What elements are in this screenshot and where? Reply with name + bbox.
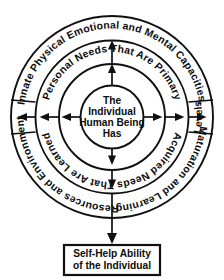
diagram-canvas: Innate Physical Emotional and Mental Cap… xyxy=(0,0,224,280)
arrow-left-inner-to-mid xyxy=(40,113,60,121)
arrow-down-core-to-inner xyxy=(108,149,116,166)
arrow-up-core-to-inner xyxy=(108,64,116,86)
core-line-4: Has xyxy=(103,128,122,139)
core-text-block: The Individual Human Being Has xyxy=(79,95,145,139)
concentric-rings-diagram: Innate Physical Emotional and Mental Cap… xyxy=(0,0,224,280)
outer-ring-right-label: Levels xyxy=(192,100,204,134)
core-line-2: Individual xyxy=(88,106,136,117)
core-line-1: The xyxy=(103,95,121,106)
arrow-right-core-to-inner xyxy=(144,113,163,121)
arrow-left-core-to-inner xyxy=(62,113,81,121)
outcome-box: Self-Help Ability of the Individual xyxy=(64,245,160,275)
outcome-line-1: Self-Help Ability xyxy=(73,248,151,259)
arrow-right-inner-to-mid xyxy=(165,113,185,121)
core-line-3: Human Being xyxy=(79,117,145,128)
outcome-line-2: of the Individual xyxy=(73,260,151,271)
